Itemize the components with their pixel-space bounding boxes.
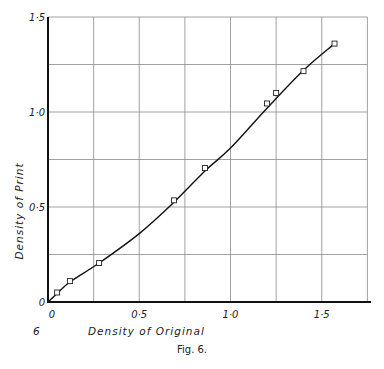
data-point-marker <box>274 91 279 96</box>
y-tick-label: 0 <box>39 297 45 308</box>
data-point-marker <box>202 166 207 171</box>
data-point-marker <box>265 101 270 106</box>
y-tick-label: 0·5 <box>29 202 45 213</box>
data-point-marker <box>171 198 176 203</box>
fitted-curve <box>48 44 335 302</box>
data-point-marker <box>67 279 72 284</box>
figure-number-left: 6 <box>33 325 40 337</box>
x-tick-label: 1·0 <box>223 309 239 320</box>
grid-lines <box>48 17 367 302</box>
y-axis-label: Density of Print <box>13 162 25 259</box>
data-point-marker <box>55 290 60 295</box>
x-axis-label: Density of Original <box>88 325 205 337</box>
x-tick-labels: 00·51·01·5 <box>49 309 330 320</box>
y-tick-label: 1·5 <box>29 12 45 23</box>
data-point-marker <box>301 69 306 74</box>
x-tick-label: 1·5 <box>314 309 330 320</box>
data-point-marker <box>97 261 102 266</box>
y-tick-label: 1·0 <box>29 107 45 118</box>
y-tick-labels: 00·51·01·5 <box>29 12 45 308</box>
x-tick-label: 0 <box>49 309 55 320</box>
x-tick-label: 0·5 <box>131 309 147 320</box>
data-point-marker <box>332 41 337 46</box>
chart: 00·51·01·5 00·51·01·5 Density of Print 6… <box>0 0 384 369</box>
figure-caption: Fig. 6. <box>177 344 207 355</box>
